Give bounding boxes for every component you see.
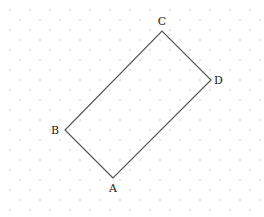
grid-dot <box>229 69 230 70</box>
grid-dot <box>29 169 30 170</box>
grid-dot <box>169 169 170 170</box>
grid-dot <box>149 129 150 130</box>
grid-dot <box>99 139 100 140</box>
grid-dot <box>159 119 160 120</box>
grid-dot <box>149 29 150 30</box>
grid-dot <box>179 199 180 200</box>
grid-dot <box>59 79 60 80</box>
grid-dot <box>69 189 70 190</box>
vertex-label-d: D <box>214 74 223 87</box>
grid-dot <box>109 129 110 130</box>
grid-dot <box>69 29 70 30</box>
grid-dot <box>49 149 50 150</box>
grid-dot <box>29 29 30 30</box>
grid-dot <box>129 149 130 150</box>
grid-dot <box>179 39 180 40</box>
grid-dot <box>209 109 210 110</box>
grid-dot <box>179 119 180 120</box>
grid-dot <box>129 9 130 10</box>
grid-dot <box>139 119 140 120</box>
grid-dot <box>189 189 190 190</box>
grid-dot <box>59 39 60 40</box>
grid-dot <box>199 79 200 80</box>
vertex-labels: ABCD <box>51 15 223 195</box>
grid-dot <box>169 29 170 30</box>
grid-dot <box>109 89 110 90</box>
grid-dot <box>199 39 200 40</box>
grid-dot <box>9 89 10 90</box>
rectangle-abcd <box>65 31 211 178</box>
grid-dot <box>89 209 90 210</box>
grid-dot <box>89 29 90 30</box>
grid-dot <box>19 79 20 80</box>
grid-dot <box>149 189 150 190</box>
grid-dot <box>229 9 230 10</box>
grid-dot <box>169 209 170 210</box>
grid-dot <box>229 169 230 170</box>
grid-dot <box>29 209 30 210</box>
grid-dot <box>49 89 50 90</box>
grid-dot <box>239 199 240 200</box>
grid-dot <box>169 189 170 190</box>
grid-dot <box>209 9 210 10</box>
grid-dot <box>19 159 20 160</box>
grid-dot <box>79 19 80 20</box>
grid-dot <box>29 129 30 130</box>
grid-dot <box>59 159 60 160</box>
grid-dot <box>79 139 80 140</box>
grid-dot <box>179 159 180 160</box>
grid-dot <box>139 19 140 20</box>
grid-dot <box>129 89 130 90</box>
grid-dot <box>139 159 140 160</box>
grid-dot <box>69 129 70 130</box>
grid-dot <box>249 69 250 70</box>
grid-dot <box>209 29 210 30</box>
grid-dot <box>209 129 210 130</box>
grid-dot <box>19 139 20 140</box>
dot-grid <box>9 9 260 210</box>
grid-dot <box>209 149 210 150</box>
grid-dot <box>59 99 60 100</box>
grid-dot <box>69 149 70 150</box>
grid-dot <box>129 129 130 130</box>
grid-dot <box>109 169 110 170</box>
grid-dot <box>99 199 100 200</box>
grid-dot <box>69 89 70 90</box>
grid-dot <box>29 69 30 70</box>
grid-dot <box>149 89 150 90</box>
grid-dot <box>59 199 60 200</box>
diagram-svg: ABCD <box>0 0 264 217</box>
grid-dot <box>209 69 210 70</box>
grid-dot <box>29 89 30 90</box>
grid-dot <box>219 99 220 100</box>
grid-dot <box>129 69 130 70</box>
grid-dot <box>149 209 150 210</box>
grid-dot <box>179 99 180 100</box>
grid-dot <box>209 209 210 210</box>
grid-dot <box>149 9 150 10</box>
grid-dot <box>9 169 10 170</box>
grid-dot <box>199 19 200 20</box>
grid-dot <box>69 9 70 10</box>
grid-dot <box>259 19 260 20</box>
grid-dot <box>39 79 40 80</box>
grid-dot <box>119 99 120 100</box>
grid-dot <box>9 69 10 70</box>
grid-dot <box>79 79 80 80</box>
grid-dot <box>89 109 90 110</box>
grid-dot <box>89 49 90 50</box>
grid-dot <box>9 109 10 110</box>
grid-dot <box>179 139 180 140</box>
grid-dot <box>79 199 80 200</box>
grid-dot <box>179 19 180 20</box>
grid-dot <box>259 39 260 40</box>
grid-dot <box>19 179 20 180</box>
grid-dot <box>49 69 50 70</box>
grid-dot <box>139 179 140 180</box>
grid-dot <box>79 39 80 40</box>
grid-dot <box>109 209 110 210</box>
grid-dot <box>189 209 190 210</box>
grid-dot <box>209 169 210 170</box>
grid-dot <box>239 79 240 80</box>
grid-dot <box>119 59 120 60</box>
